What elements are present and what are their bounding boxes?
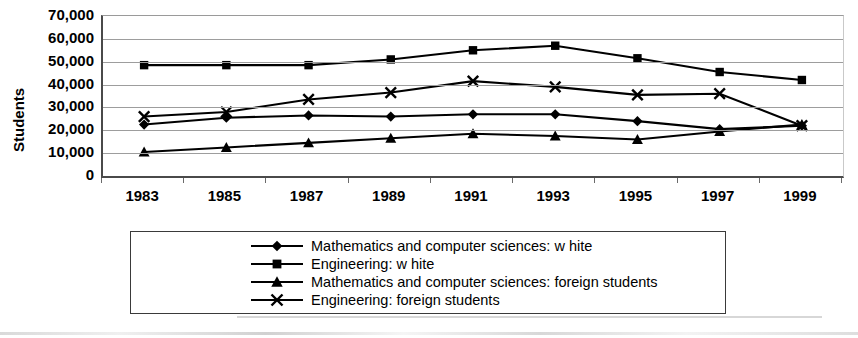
x-axis-tick: 1997	[701, 187, 734, 204]
x-axis-tickmark	[841, 178, 842, 183]
y-axis-tick: 60,000	[48, 31, 94, 45]
x-axis-tickmark	[759, 178, 760, 183]
data-point	[798, 76, 806, 84]
x-axis-tickmark	[348, 178, 349, 183]
x-axis-tick: 1995	[619, 187, 652, 204]
data-point	[468, 109, 478, 119]
legend-label: Mathematics and computer sciences: forei…	[311, 273, 658, 291]
x-axis-tickmark	[430, 178, 431, 183]
gridline	[103, 85, 843, 86]
gridline	[103, 107, 843, 108]
legend-label: Engineering: w hite	[311, 255, 434, 273]
gridline	[103, 130, 843, 131]
x-axis-tickmark	[677, 178, 678, 183]
scan-artifact-upper	[237, 316, 822, 318]
x-axis-tick: 1991	[454, 187, 487, 204]
x-axis-tick: 1983	[125, 187, 158, 204]
y-axis-tick: 70,000	[48, 8, 94, 22]
data-point	[550, 109, 560, 119]
x-axis-tick: 1999	[783, 187, 816, 204]
y-axis-tick-labels: 010,00020,00030,00040,00050,00060,00070,…	[30, 8, 94, 184]
scan-artifact-lower	[0, 332, 858, 335]
chart-legend: Mathematics and computer sciences: w hit…	[130, 231, 726, 314]
plot-area	[101, 15, 844, 178]
legend-item: Mathematics and computer sciences: w hit…	[249, 237, 658, 255]
series-3	[139, 119, 808, 156]
gridline	[103, 62, 843, 63]
y-axis-title: Students	[10, 0, 30, 52]
y-axis-title-label: Students	[10, 88, 27, 152]
data-point	[632, 116, 642, 126]
legend-marker-triangle-icon	[249, 273, 305, 291]
data-point	[551, 42, 559, 50]
legend-item: Mathematics and computer sciences: forei…	[249, 273, 658, 291]
legend-marker-diamond-icon	[249, 237, 305, 255]
x-axis-tick: 1987	[290, 187, 323, 204]
x-axis-tickmark	[183, 178, 184, 183]
data-point	[386, 111, 396, 121]
x-axis-tickmark	[265, 178, 266, 183]
y-axis-tick: 30,000	[48, 99, 94, 113]
y-axis-tick: 10,000	[48, 145, 94, 159]
chart-figure: Students 010,00020,00030,00040,00050,000…	[0, 0, 858, 338]
x-axis-tick: 1985	[208, 187, 241, 204]
legend-marker-x-icon	[249, 291, 305, 309]
x-axis-tickmark	[101, 178, 102, 183]
y-axis-tick: 40,000	[48, 77, 94, 91]
y-axis-tick: 20,000	[48, 122, 94, 136]
data-point	[715, 68, 723, 76]
legend-item: Engineering: foreign students	[249, 291, 658, 309]
legend-item: Engineering: w hite	[249, 255, 658, 273]
legend-marker-square-icon	[249, 255, 305, 273]
x-axis-tickmark	[512, 178, 513, 183]
x-axis-tick: 1993	[537, 187, 570, 204]
legend-label: Mathematics and computer sciences: w hit…	[311, 237, 592, 255]
x-axis-tick-labels: 198319851987198919911993199519971999	[101, 178, 841, 208]
y-axis-tick: 50,000	[48, 54, 94, 68]
x-axis-tick: 1989	[372, 187, 405, 204]
x-axis-tickmark	[594, 178, 595, 183]
data-point	[303, 110, 313, 120]
y-axis-tick: 0	[86, 168, 94, 182]
legend-label: Engineering: foreign students	[311, 291, 500, 309]
data-point	[469, 46, 477, 54]
gridline	[103, 153, 843, 154]
gridline	[103, 39, 843, 40]
series-canvas	[103, 16, 843, 176]
